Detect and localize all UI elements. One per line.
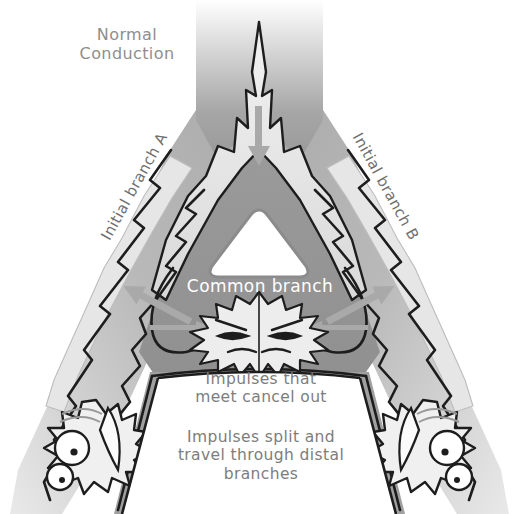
distal-terminal-right-eye-upper (430, 431, 464, 465)
distal-terminal-left-pupil-lower (59, 477, 65, 483)
caption-panel (122, 372, 396, 514)
distal-terminal-right-pupil-lower (454, 477, 460, 483)
diagram-canvas (0, 0, 519, 514)
distal-terminal-right-pupil-upper (441, 448, 448, 455)
distal-terminal-left-pupil-upper (70, 448, 77, 455)
distal-terminal-right-eye-lower (446, 464, 472, 490)
distal-terminal-left-eye-upper (55, 431, 89, 465)
distal-terminal-left-eye-lower (47, 464, 73, 490)
